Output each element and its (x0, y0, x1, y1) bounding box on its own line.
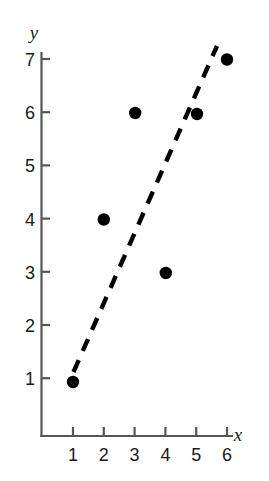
x-tick-label-4: 4 (160, 445, 170, 465)
y-axis-label: y (28, 22, 39, 43)
y-tick-label-6: 6 (25, 103, 35, 123)
y-tick-label-3: 3 (25, 263, 35, 283)
x-axis-label: x (233, 424, 243, 445)
data-point-marker (221, 53, 233, 65)
y-tick-label-4: 4 (25, 210, 35, 230)
x-tick-label-2: 2 (99, 445, 109, 465)
data-point-marker (98, 213, 110, 225)
scatter-plot-figure: 7 6 5 4 3 2 1 1 2 3 4 5 6 y x (0, 0, 269, 481)
y-tick-label-5: 5 (25, 156, 35, 176)
data-point-marker (67, 376, 79, 388)
data-point-marker (160, 267, 172, 279)
x-tick-label-3: 3 (130, 445, 140, 465)
trend-line-dashed (74, 46, 218, 372)
x-tick-labels: 1 2 3 4 5 6 (68, 445, 232, 465)
y-tick-label-2: 2 (25, 316, 35, 336)
y-axis-ticks (42, 59, 51, 378)
x-tick-label-6: 6 (222, 445, 232, 465)
plot-canvas: 7 6 5 4 3 2 1 1 2 3 4 5 6 y x (0, 0, 269, 481)
x-tick-label-5: 5 (191, 445, 201, 465)
data-points-group (67, 53, 233, 388)
x-axis-ticks (73, 427, 227, 436)
y-tick-label-7: 7 (25, 50, 35, 70)
y-tick-labels: 7 6 5 4 3 2 1 (25, 50, 35, 389)
data-point-marker (129, 107, 141, 119)
x-tick-label-1: 1 (68, 445, 78, 465)
data-point-marker (191, 108, 203, 120)
y-tick-label-1: 1 (25, 369, 35, 389)
